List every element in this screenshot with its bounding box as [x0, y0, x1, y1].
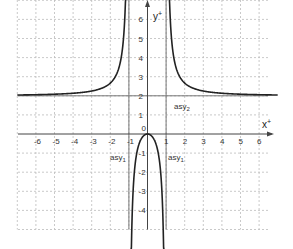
curve-left-branch	[17, 0, 127, 95]
curve-right-branch	[167, 0, 277, 95]
x-tick-label: 3	[201, 137, 206, 146]
x-axis-arrow-icon	[267, 132, 274, 137]
y-tick-label: 2	[139, 92, 144, 101]
y-tick-label: -4	[139, 206, 147, 215]
y-tick-label: 3	[139, 73, 144, 82]
x-tick-label: 0	[142, 124, 147, 133]
x-tick-label: -4	[71, 137, 79, 146]
x-tick-label: 6	[257, 137, 262, 146]
x-tick-label: 4	[220, 137, 225, 146]
y-tick-label: -1	[139, 149, 147, 158]
asy1-right-label: asy1	[168, 153, 184, 163]
x-tick-label: 5	[239, 137, 244, 146]
y-tick-label: -2	[139, 168, 147, 177]
x-tick-label: -5	[53, 137, 61, 146]
y-tick-label: 5	[139, 35, 144, 44]
y-axis-arrow-icon	[145, 0, 150, 7]
y-tick-label: -3	[139, 187, 147, 196]
x-tick-label: -6	[34, 137, 42, 146]
x-tick-label: -2	[108, 137, 116, 146]
asy1-left-label: asy1	[110, 153, 126, 163]
x-tick-label: 1	[164, 137, 169, 146]
y-tick-label: 4	[139, 54, 144, 63]
function-graph: -6-5-4-3-2-10123456654321-1-2-3-4 y+ x+ …	[0, 0, 293, 249]
asy2-label: asy2	[174, 102, 190, 112]
y-tick-label: 1	[139, 111, 144, 120]
y-axis-label: y+	[153, 10, 162, 22]
x-axis-label: x+	[262, 118, 271, 130]
x-tick-label: -3	[90, 137, 98, 146]
x-tick-label: -1	[127, 137, 135, 146]
y-tick-label: 6	[139, 15, 144, 24]
x-tick-label: 2	[183, 137, 188, 146]
